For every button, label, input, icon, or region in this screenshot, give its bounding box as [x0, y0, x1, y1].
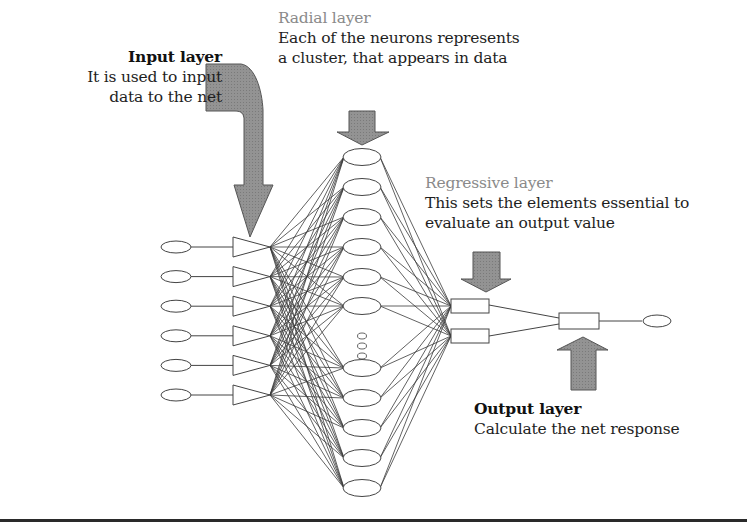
- input-neuron-5: [161, 359, 191, 371]
- radial-nodes: [343, 149, 381, 497]
- input-layer-description-1: It is used to input: [87, 67, 222, 87]
- regressive-layer-description-2: evaluate an output value: [425, 213, 689, 233]
- input-lines: [191, 247, 233, 395]
- radial-neuron-4: [343, 239, 381, 256]
- input-triangle-6: [233, 385, 270, 405]
- input-layer-label: Input layer It is used to input data to …: [87, 47, 222, 107]
- regressive-layer-description-1: This sets the elements essential to: [425, 193, 689, 213]
- radial-neuron-6: [343, 298, 381, 315]
- input-triangle-1: [233, 237, 270, 257]
- radial-neuron-11: [343, 480, 381, 497]
- input-layer-description-2: data to the net: [87, 87, 222, 107]
- input-triangle-5: [233, 355, 270, 375]
- bottom-rule: [0, 519, 747, 522]
- radial-layer-title: Radial layer: [278, 8, 520, 28]
- radial-ellipsis-dot: [358, 333, 367, 339]
- regressive-neuron-2: [451, 329, 489, 343]
- radial-neuron-8: [343, 390, 381, 407]
- input-neuron-2: [161, 271, 191, 283]
- radial-neuron-5: [343, 269, 381, 286]
- output-node: [643, 315, 671, 327]
- radial-layer-description-1: Each of the neurons represents: [278, 28, 520, 48]
- input-triangle-3: [233, 296, 270, 316]
- radial-neuron-10: [343, 450, 381, 467]
- output-layer-title: Output layer: [474, 399, 680, 419]
- radial-ellipsis-dot: [358, 353, 367, 359]
- regressive-neuron-1: [451, 299, 489, 313]
- input-nodes: [161, 237, 270, 405]
- radial-neuron-9: [343, 420, 381, 437]
- output-layer-arrow-icon: [557, 337, 608, 390]
- regressive-layer-arrow-icon: [461, 252, 511, 292]
- radial-neuron-2: [343, 179, 381, 196]
- input-neuron-6: [161, 389, 191, 401]
- radial-ellipsis-dot: [358, 343, 367, 349]
- output-layer-label: Output layer Calculate the net response: [474, 399, 680, 439]
- input-to-radial-connections: [270, 157, 344, 488]
- input-neuron-4: [161, 330, 191, 342]
- input-neuron-1: [161, 241, 191, 253]
- radial-layer-label: Radial layer Each of the neurons represe…: [278, 8, 520, 68]
- input-layer-title: Input layer: [87, 47, 222, 67]
- output-layer-description-1: Calculate the net response: [474, 419, 680, 439]
- radial-neuron-3: [343, 209, 381, 226]
- regressive-layer-title: Regressive layer: [425, 173, 689, 193]
- radial-neuron-1: [343, 149, 381, 166]
- input-neuron-3: [161, 300, 191, 312]
- output-neuron: [559, 313, 599, 329]
- regressive-layer-label: Regressive layer This sets the elements …: [425, 173, 689, 233]
- radial-layer-description-2: a cluster, that appears in data: [278, 48, 520, 68]
- radial-layer-arrow-icon: [337, 111, 389, 145]
- input-triangle-2: [233, 267, 270, 287]
- input-triangle-4: [233, 326, 270, 346]
- radial-neuron-7: [343, 360, 381, 377]
